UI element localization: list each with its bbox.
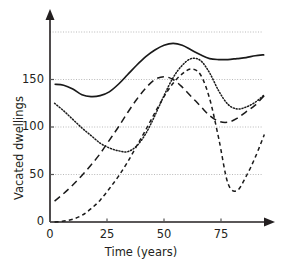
chart-figure: 0 50 100 150 0 25 50 75 Vacated dwelling… bbox=[0, 0, 282, 267]
series-short-dash-curve bbox=[55, 69, 265, 222]
x-tick-label-75: 75 bbox=[201, 227, 241, 241]
data-series-group bbox=[55, 43, 265, 222]
x-axis-title: Time (years) bbox=[0, 245, 282, 259]
gridlines-group bbox=[50, 32, 262, 175]
y-tick-label-0: 0 bbox=[0, 214, 44, 228]
y-tick-label-150: 150 bbox=[0, 72, 44, 86]
x-tick-label-50: 50 bbox=[144, 227, 184, 241]
y-axis-arrowhead bbox=[46, 9, 55, 20]
series-solid-curve bbox=[55, 43, 265, 96]
axes-group bbox=[46, 9, 276, 227]
y-axis-title: Vacated dwellings bbox=[12, 96, 26, 200]
series-dotted-curve bbox=[55, 58, 265, 152]
x-axis-arrowhead bbox=[264, 218, 275, 227]
x-tick-label-0: 0 bbox=[30, 227, 70, 241]
x-tick-label-25: 25 bbox=[87, 227, 127, 241]
